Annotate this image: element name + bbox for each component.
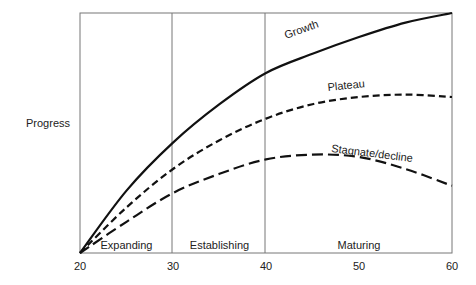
- x-tick-label: 30: [167, 260, 179, 272]
- region-label: Expanding: [101, 239, 153, 251]
- series-label: Growth: [283, 17, 320, 40]
- series-label: Plateau: [327, 77, 365, 93]
- x-tick-label: 20: [74, 260, 86, 272]
- region-label: Maturing: [338, 239, 381, 251]
- series-line-plateau: [80, 95, 452, 253]
- x-tick-label: 50: [353, 260, 365, 272]
- x-tick-label: 40: [260, 260, 272, 272]
- series-label: Stagnate/decline: [331, 142, 414, 164]
- career-progress-chart: GrowthPlateauStagnate/decline ExpandingE…: [0, 0, 476, 285]
- x-tick-label: 60: [446, 260, 458, 272]
- y-axis-label: Progress: [26, 117, 71, 129]
- region-label: Establishing: [190, 239, 249, 251]
